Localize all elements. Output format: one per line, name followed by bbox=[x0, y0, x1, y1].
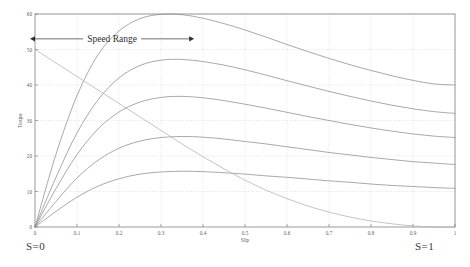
x-tick-label: 0 bbox=[34, 230, 37, 236]
y-axis-title: Torque bbox=[17, 112, 23, 127]
y-tick-label: 60 bbox=[27, 11, 33, 17]
y-tick-label: 50 bbox=[27, 47, 33, 53]
x-tick-label: 0.9 bbox=[410, 230, 417, 236]
y-tick-label: 10 bbox=[27, 189, 33, 195]
torque-slip-plot: 00.10.20.30.40.50.60.70.80.9101020304050… bbox=[0, 0, 470, 267]
grid-lines bbox=[35, 14, 455, 227]
slip-one-label: S=1 bbox=[415, 240, 434, 252]
torque-slip-chart-figure: 00.10.20.30.40.50.60.70.80.9101020304050… bbox=[0, 0, 470, 267]
y-tick-label: 30 bbox=[27, 118, 33, 124]
speed-range-annotation: Speed Range bbox=[30, 34, 194, 44]
x-axis-title: Slip bbox=[241, 237, 250, 243]
x-tick-label: 0.4 bbox=[200, 230, 207, 236]
x-tick-label: 0.7 bbox=[326, 230, 333, 236]
y-tick-label: 0 bbox=[29, 224, 32, 230]
y-tick-labels: 0102030405060 bbox=[27, 11, 33, 230]
y-tick-label: 40 bbox=[27, 82, 33, 88]
y-tick-label: 20 bbox=[27, 153, 33, 159]
slip-zero-label: S=0 bbox=[26, 240, 45, 252]
x-tick-label: 1 bbox=[454, 230, 457, 236]
x-tick-label: 0.3 bbox=[158, 230, 165, 236]
speed-range-label: Speed Range bbox=[87, 34, 137, 44]
x-tick-label: 0.1 bbox=[74, 230, 81, 236]
x-tick-label: 0.6 bbox=[284, 230, 291, 236]
x-tick-labels: 00.10.20.30.40.50.60.70.80.91 bbox=[34, 230, 457, 236]
x-tick-label: 0.5 bbox=[242, 230, 249, 236]
x-tick-label: 0.2 bbox=[116, 230, 123, 236]
x-tick-label: 0.8 bbox=[368, 230, 375, 236]
